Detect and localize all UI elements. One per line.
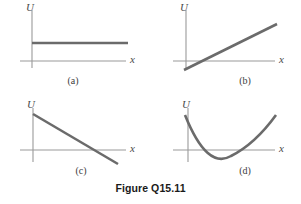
panel-c-curve — [33, 114, 118, 164]
figure-container: U x (a) U x (b) U x (c) U x (d) — [0, 0, 301, 204]
panel-a-y-axis-label: U — [26, 2, 34, 13]
panel-c-caption: (c) — [46, 166, 116, 176]
panel-d: U x (d) — [165, 100, 295, 168]
panel-d-curve — [185, 115, 276, 159]
panel-c: U x (c) — [18, 100, 148, 168]
panel-b-curve — [184, 24, 277, 70]
panel-c-x-axis-label: x — [130, 143, 135, 154]
panel-a-x-axis-label: x — [130, 54, 135, 65]
panel-c-y-axis-label: U — [27, 99, 35, 110]
panel-d-plot — [165, 100, 295, 168]
panel-b-x-axis-label: x — [279, 54, 284, 65]
panel-b: U x (b) — [165, 6, 295, 74]
figure-caption: Figure Q15.11 — [0, 182, 301, 194]
panel-c-plot — [18, 100, 148, 168]
panel-b-caption: (b) — [205, 76, 285, 86]
panel-b-y-axis-label: U — [180, 2, 188, 13]
panel-a-plot — [18, 6, 148, 74]
panel-d-x-axis-label: x — [279, 143, 284, 154]
panel-a: U x (a) — [18, 6, 148, 74]
panel-d-caption: (d) — [205, 166, 285, 176]
panel-a-caption: (a) — [18, 76, 128, 86]
panel-d-y-axis-label: U — [182, 99, 190, 110]
panel-b-plot — [165, 6, 295, 74]
